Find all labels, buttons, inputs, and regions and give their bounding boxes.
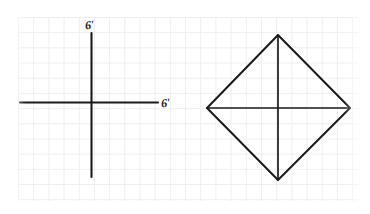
coordinate-axes-group — [20, 33, 158, 177]
ink-drawing-layer — [0, 0, 370, 214]
rhombus-group — [207, 35, 350, 180]
worksheet-canvas: 6' 6' — [0, 0, 370, 214]
x-axis-label: 6' — [160, 97, 170, 110]
y-axis-label: 6' — [84, 19, 94, 32]
